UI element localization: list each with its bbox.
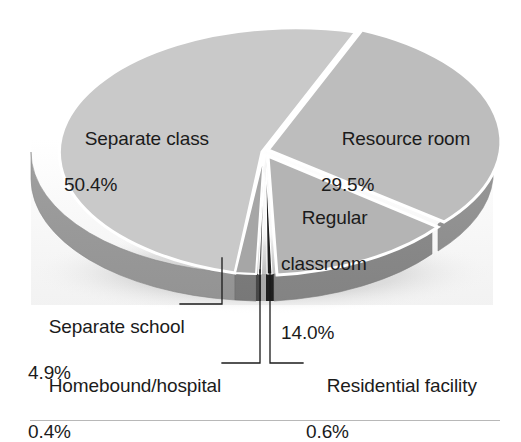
slice-label-separate-school-name: Separate school bbox=[49, 316, 185, 337]
slice-label-regular-classroom-name-line2: classroom bbox=[281, 252, 368, 275]
slice-label-residential-facility: Residential facility 0.6% bbox=[306, 351, 477, 442]
slice-label-separate-class-name: Separate class bbox=[85, 128, 209, 149]
slice-label-regular-classroom-value: 14.0% bbox=[281, 321, 368, 344]
slice-label-resource-room-name: Resource room bbox=[342, 128, 471, 149]
slice-label-residential-facility-name: Residential facility bbox=[327, 375, 477, 396]
bottom-divider-rule bbox=[30, 420, 500, 421]
slice-label-separate-class-value: 50.4% bbox=[64, 173, 209, 196]
slice-label-homebound-hospital: Homebound/hospital 0.4% bbox=[28, 351, 221, 442]
slice-label-regular-classroom-name-line1: Regular bbox=[302, 207, 368, 228]
slice-label-residential-facility-value: 0.6% bbox=[306, 420, 477, 442]
slice-label-homebound-hospital-value: 0.4% bbox=[28, 420, 221, 442]
slice-label-homebound-hospital-name: Homebound/hospital bbox=[49, 375, 221, 396]
slice-label-separate-class: Separate class 50.4% bbox=[64, 104, 209, 242]
